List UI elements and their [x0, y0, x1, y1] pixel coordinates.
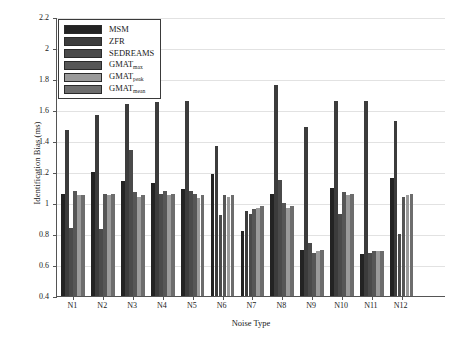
- x-axis-tick-mark: [163, 296, 164, 300]
- legend-swatch: [64, 61, 102, 70]
- gridline: [57, 111, 445, 112]
- bar: [111, 194, 115, 296]
- x-axis-tick-mark: [252, 296, 253, 300]
- gridline: [57, 142, 445, 143]
- bar: [410, 194, 414, 296]
- y-axis-tick-mark: [53, 204, 57, 205]
- legend-swatch: [64, 49, 102, 58]
- x-axis-tick-mark: [223, 296, 224, 300]
- y-axis-tick-label: 1.4: [9, 137, 49, 146]
- x-axis-tick-mark: [103, 296, 104, 300]
- legend-item-zfr: ZFR: [64, 36, 154, 46]
- x-axis-tick-mark: [193, 296, 194, 300]
- y-axis-tick-label: 0.6: [9, 261, 49, 270]
- bar: [290, 206, 294, 296]
- y-axis-tick-mark: [53, 80, 57, 81]
- y-axis-tick-mark: [53, 18, 57, 19]
- x-axis-tick-label: N12: [384, 301, 418, 310]
- legend-swatch: [64, 25, 102, 34]
- legend-label: GMATpeak: [109, 72, 144, 82]
- x-axis-tick-mark: [402, 296, 403, 300]
- y-axis-tick-label: 2.2: [9, 13, 49, 22]
- gridline: [57, 173, 445, 174]
- chart-legend: MSMZFRSEDREAMSGMATmaxGMATpeakGMATmean: [58, 19, 161, 99]
- y-axis-tick-mark: [53, 173, 57, 174]
- legend-item-sedreams: SEDREAMS: [64, 48, 154, 58]
- bar: [201, 195, 205, 296]
- legend-label: SEDREAMS: [109, 49, 154, 58]
- y-axis-tick-label: 2: [9, 44, 49, 53]
- gridline: [57, 204, 445, 205]
- y-axis-tick-label: 0.4: [9, 292, 49, 301]
- figure-bar-chart-identification-bias: Identification Bias (ms) Noise Type 0.40…: [0, 0, 456, 338]
- bar: [81, 195, 85, 296]
- y-axis-tick-label: 1.2: [9, 168, 49, 177]
- legend-label: MSM: [109, 25, 129, 34]
- legend-swatch: [64, 37, 102, 46]
- x-axis-tick-mark: [312, 296, 313, 300]
- legend-item-gmat-mean: GMATmean: [64, 84, 154, 94]
- x-axis-tick-mark: [342, 296, 343, 300]
- legend-item-gmat-peak: GMATpeak: [64, 72, 154, 82]
- y-axis-tick-mark: [53, 142, 57, 143]
- legend-item-gmat-max: GMATmax: [64, 60, 154, 70]
- y-axis-tick-label: 1.6: [9, 106, 49, 115]
- legend-label: ZFR: [109, 37, 125, 46]
- x-axis-tick-mark: [133, 296, 134, 300]
- y-axis-tick-mark: [53, 49, 57, 50]
- y-axis-tick-mark: [53, 235, 57, 236]
- y-axis-tick-mark: [53, 111, 57, 112]
- legend-label: GMATmean: [109, 84, 145, 94]
- x-axis-tick-mark: [372, 296, 373, 300]
- x-axis-title: Noise Type: [56, 318, 446, 328]
- bar: [171, 194, 175, 296]
- bar: [260, 206, 264, 296]
- legend-label: GMATmax: [109, 60, 143, 70]
- bar: [141, 195, 145, 296]
- legend-item-msm: MSM: [64, 24, 154, 34]
- bar: [380, 251, 384, 296]
- x-axis-tick-mark: [282, 296, 283, 300]
- x-axis-tick-mark: [73, 296, 74, 300]
- bar: [231, 195, 235, 296]
- legend-swatch: [64, 73, 102, 82]
- y-axis-tick-mark: [53, 297, 57, 298]
- y-axis-tick-label: 0.8: [9, 230, 49, 239]
- legend-swatch: [64, 85, 102, 94]
- y-axis-tick-label: 1.8: [9, 75, 49, 84]
- bar: [320, 250, 324, 297]
- y-axis-tick-label: 1: [9, 199, 49, 208]
- y-axis-tick-mark: [53, 266, 57, 267]
- bar: [350, 194, 354, 296]
